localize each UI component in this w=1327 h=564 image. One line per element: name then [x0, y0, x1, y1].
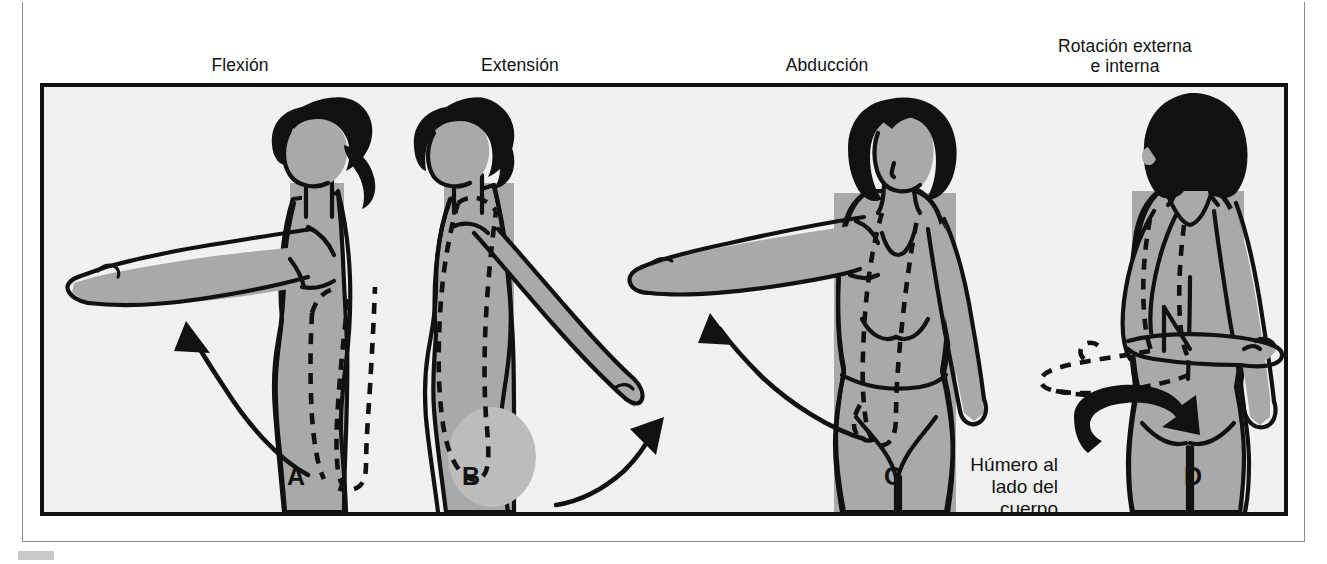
- artwork-canvas: .sk { fill: #a9a9a9; stroke: #111111; st…: [44, 87, 1284, 512]
- panel-letter-b: B: [462, 462, 480, 490]
- shoulder-rom-figure: Flexión Extensión Abducción Rotación ext…: [0, 0, 1327, 564]
- caption-rotacion: Rotación externa e interna: [1010, 36, 1240, 76]
- annotation-humero-line2: lado del: [991, 476, 1058, 497]
- caption-extension: Extensión: [430, 55, 610, 75]
- artwork-background: [44, 87, 1284, 512]
- caption-flexion: Flexión: [150, 55, 330, 75]
- caption-row: Flexión Extensión Abducción Rotación ext…: [40, 40, 1288, 82]
- plate-bottom-mark: [18, 551, 54, 560]
- caption-abduccion: Abducción: [732, 55, 922, 75]
- panel-letter-a: A: [287, 462, 305, 490]
- panel-letter-c: C: [884, 462, 902, 490]
- annotation-humero-line3: cuerpo: [1000, 498, 1058, 512]
- annotation-humero-line1: Húmero al: [970, 454, 1058, 475]
- artwork-frame: .sk { fill: #a9a9a9; stroke: #111111; st…: [40, 83, 1288, 516]
- panel-letter-d: D: [1184, 462, 1202, 490]
